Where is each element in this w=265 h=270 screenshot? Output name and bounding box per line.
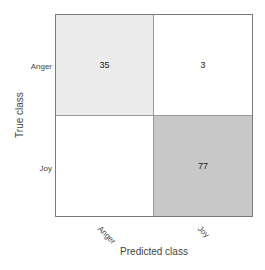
x-tick-joy: Joy [196,224,211,239]
cell-value: 3 [200,60,205,70]
x-axis-title: Predicted class [55,246,253,257]
cell-joy-anger [56,116,154,216]
cell-joy-joy: 77 [154,116,252,216]
x-tick-anger: Anger [96,224,117,245]
cell-anger-anger: 35 [56,15,154,116]
y-tick-anger: Anger [31,62,52,71]
cell-value: 77 [198,161,208,171]
cell-value: 35 [99,60,109,70]
y-tick-joy: Joy [40,164,52,173]
y-axis-title: True class [14,92,25,138]
confusion-matrix-plot: 35 3 77 [55,14,253,217]
cell-anger-joy: 3 [154,15,252,116]
